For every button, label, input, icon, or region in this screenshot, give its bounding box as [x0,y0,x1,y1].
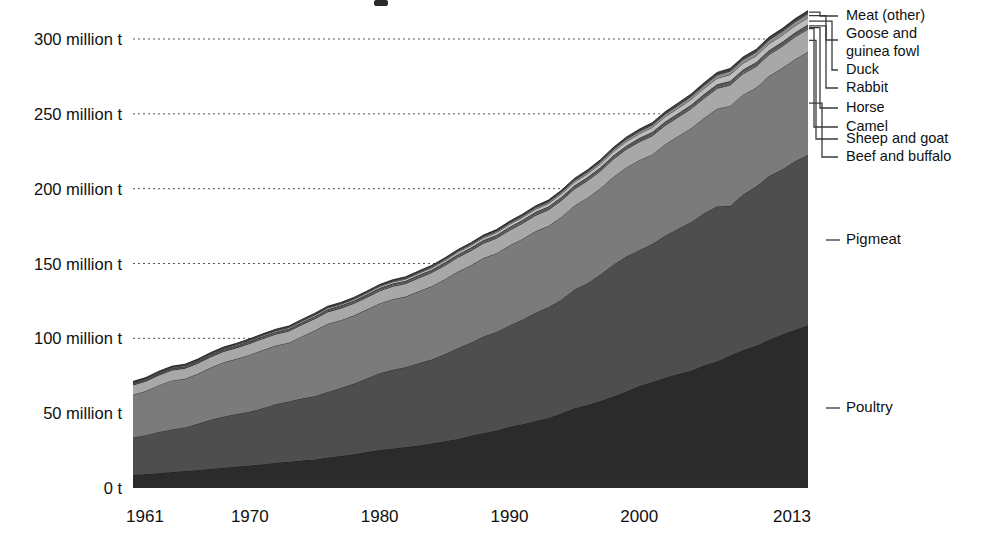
legend-label: Rabbit [846,79,888,95]
y-axis-tick-label: 0 t [104,479,123,497]
y-axis-tick-label: 150 million t [34,255,122,273]
legend-label: Poultry [846,398,893,415]
legend-label: guinea fowl [846,43,919,59]
y-axis-tick-label: 300 million t [34,30,122,48]
y-axis-tick-label: 250 million t [34,105,122,123]
x-axis-tick-label: 1961 [126,507,164,526]
legend-label: Horse [846,99,885,115]
x-axis-tick-label: 1990 [491,507,529,526]
legend-label: Goose and [846,25,917,41]
x-axis-tick-label: 2013 [773,507,811,526]
x-axis-tick-label: 2000 [620,507,658,526]
y-axis-tick-label: 200 million t [34,180,122,198]
x-axis-tick-label: 1970 [231,507,269,526]
y-axis-tick-label: 100 million t [34,329,122,347]
stacked-area-chart: 0 t50 million t100 million t150 million … [0,0,990,542]
x-axis-tick-label: 1980 [361,507,399,526]
legend-label: Beef and buffalo [846,148,951,164]
title-fragment [374,0,388,6]
legend-label: Sheep and goat [846,130,948,146]
legend-label: Meat (other) [846,7,925,23]
y-axis-tick-label: 50 million t [43,404,122,422]
legend-label: Pigmeat [846,230,902,247]
legend-label: Duck [846,61,880,77]
